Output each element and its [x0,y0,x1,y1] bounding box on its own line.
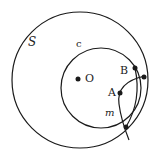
point-B [133,66,138,71]
label-A: A [107,86,117,99]
point-intersection-right [142,75,147,80]
circle-c [61,48,141,128]
label-S: S [28,35,36,49]
point-O [76,77,81,82]
label-B: B [120,64,128,77]
label-c: c [76,38,82,49]
geometry-diagram: S c O A B m [0,0,158,161]
label-O: O [85,72,94,85]
point-intersection-bottom [124,125,129,130]
point-A [118,91,123,96]
label-m: m [105,107,114,118]
